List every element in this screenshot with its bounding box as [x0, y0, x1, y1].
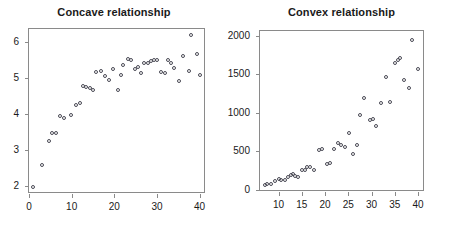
- data-point: [189, 33, 193, 37]
- xtick-convex-1: [302, 192, 303, 196]
- data-point: [355, 143, 359, 147]
- xtick-label-convex-5: 35: [389, 200, 400, 210]
- plot-area-convex: 050010001500200010152025303540: [259, 30, 424, 191]
- xtick-convex-2: [325, 192, 326, 196]
- ytick-label-concave-0: 2: [13, 181, 19, 191]
- data-point: [362, 96, 366, 100]
- ytick-label-convex-0: 0: [244, 185, 250, 195]
- data-point: [31, 185, 35, 189]
- xtick-concave-3: [157, 194, 158, 198]
- data-point: [129, 58, 133, 62]
- data-point: [169, 61, 173, 65]
- figure-scatter-plot-pair: Concave relationship 23456010203040 Conv…: [0, 0, 455, 226]
- xtick-label-concave-3: 30: [151, 202, 162, 212]
- xtick-convex-0: [279, 192, 280, 196]
- ytick-convex-3: [256, 74, 260, 75]
- data-point: [398, 56, 402, 60]
- data-point: [358, 113, 362, 117]
- data-point: [116, 88, 120, 92]
- data-point: [351, 152, 355, 156]
- data-point: [47, 139, 51, 143]
- data-point: [384, 75, 388, 79]
- ytick-concave-0: [25, 186, 29, 187]
- xtick-label-convex-3: 25: [343, 200, 354, 210]
- panel-concave: Concave relationship 23456010203040: [0, 0, 228, 226]
- data-point: [62, 116, 66, 120]
- data-point: [187, 69, 191, 73]
- panel-convex-title: Convex relationship: [228, 6, 455, 18]
- data-point: [379, 101, 383, 105]
- data-point: [163, 71, 167, 75]
- xtick-label-convex-2: 20: [320, 200, 331, 210]
- xtick-concave-2: [114, 194, 115, 198]
- data-point: [402, 78, 406, 82]
- xtick-label-convex-4: 30: [366, 200, 377, 210]
- data-point: [69, 113, 73, 117]
- panel-concave-title: Concave relationship: [0, 6, 228, 18]
- data-point: [40, 163, 44, 167]
- data-point: [139, 71, 143, 75]
- xtick-label-concave-2: 20: [109, 202, 120, 212]
- data-point: [312, 168, 316, 172]
- ytick-label-convex-2: 1000: [228, 108, 250, 118]
- ytick-label-convex-1: 500: [233, 146, 250, 156]
- ytick-label-convex-4: 2000: [228, 31, 250, 41]
- xtick-convex-4: [372, 192, 373, 196]
- xtick-convex-3: [348, 192, 349, 196]
- data-point: [78, 101, 82, 105]
- data-point: [343, 145, 347, 149]
- ytick-label-concave-1: 3: [13, 145, 19, 155]
- data-point: [107, 78, 111, 82]
- data-point: [332, 147, 336, 151]
- data-point: [195, 52, 199, 56]
- data-point: [407, 86, 411, 90]
- data-point: [103, 74, 107, 78]
- data-point: [181, 54, 185, 58]
- data-point: [121, 63, 125, 67]
- ytick-convex-2: [256, 113, 260, 114]
- xtick-label-convex-0: 10: [273, 200, 284, 210]
- ytick-concave-1: [25, 150, 29, 151]
- data-point: [111, 67, 115, 71]
- data-point: [177, 79, 181, 83]
- ytick-label-concave-2: 4: [13, 109, 19, 119]
- xtick-label-concave-1: 10: [66, 202, 77, 212]
- data-point: [320, 147, 324, 151]
- ytick-concave-4: [25, 42, 29, 43]
- data-point: [155, 58, 159, 62]
- ytick-label-concave-4: 6: [13, 37, 19, 47]
- ytick-concave-3: [25, 78, 29, 79]
- data-point: [136, 65, 140, 69]
- data-point: [296, 175, 300, 179]
- xtick-label-convex-6: 40: [412, 200, 423, 210]
- data-point: [54, 131, 58, 135]
- panel-convex: Convex relationship 05001000150020001015…: [228, 0, 455, 226]
- ytick-label-concave-3: 5: [13, 73, 19, 83]
- data-point: [374, 124, 378, 128]
- xtick-concave-0: [29, 194, 30, 198]
- ytick-convex-0: [256, 190, 260, 191]
- xtick-label-convex-1: 15: [296, 200, 307, 210]
- data-point: [119, 73, 123, 77]
- xtick-label-concave-0: 0: [26, 202, 32, 212]
- data-point: [198, 73, 202, 77]
- data-point: [99, 69, 103, 73]
- xtick-concave-1: [72, 194, 73, 198]
- ytick-convex-4: [256, 36, 260, 37]
- data-point: [283, 178, 287, 182]
- data-point: [416, 67, 420, 71]
- data-point: [410, 38, 414, 42]
- data-point: [347, 131, 351, 135]
- xtick-convex-5: [395, 192, 396, 196]
- ytick-convex-1: [256, 151, 260, 152]
- ytick-concave-2: [25, 114, 29, 115]
- data-point: [388, 100, 392, 104]
- ytick-label-convex-3: 1500: [228, 69, 250, 79]
- data-point: [91, 88, 95, 92]
- xtick-label-concave-4: 40: [194, 202, 205, 212]
- data-point: [172, 66, 176, 70]
- xtick-convex-6: [418, 192, 419, 196]
- xtick-concave-4: [200, 194, 201, 198]
- data-point: [371, 117, 375, 121]
- plot-area-concave: 23456010203040: [28, 28, 205, 193]
